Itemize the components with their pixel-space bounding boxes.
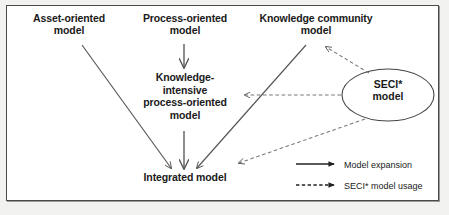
node-seci-model: SECI* model xyxy=(355,78,421,102)
edge-seci-to-integrated xyxy=(239,119,365,163)
node-knowledge-community-model: Knowledge community model xyxy=(240,13,392,37)
node-integrated-model: Integrated model xyxy=(118,172,252,184)
node-asset-oriented-model: Asset-oriented model xyxy=(8,13,130,37)
legend-model-expansion-label: Model expansion xyxy=(344,160,412,170)
figure-root: Asset-oriented model Process-oriented mo… xyxy=(0,0,449,215)
node-process-oriented-model: Process-oriented model xyxy=(124,13,246,37)
legend-seci-model-usage-label: SECI* model usage xyxy=(344,181,423,191)
edge-seci-to-community xyxy=(326,47,369,73)
node-knowledge-intensive-process-oriented-model: Knowledge- intensive process-oriented mo… xyxy=(126,71,244,121)
